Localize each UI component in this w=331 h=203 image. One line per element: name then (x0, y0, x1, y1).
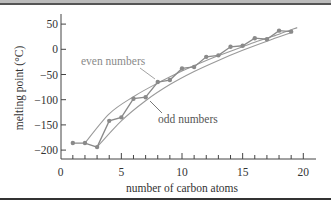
odd-numbers-leader (150, 101, 162, 113)
odd-numbers-label: odd numbers (158, 113, 218, 125)
data-point-marker (265, 37, 269, 41)
melting-point-line (73, 31, 291, 147)
data-point-marker (180, 66, 184, 70)
data-point-marker (71, 141, 75, 145)
data-point-marker (143, 95, 147, 99)
data-point-marker (192, 65, 196, 69)
even-numbers-leader (140, 68, 155, 79)
x-axis-title: number of carbon atoms (126, 182, 239, 194)
data-point-marker (131, 96, 135, 100)
data-point-marker (119, 115, 123, 119)
y-tick-label: −150 (34, 119, 58, 131)
data-point-marker (289, 29, 293, 33)
x-tick-label: 5 (118, 166, 124, 178)
data-point-marker (204, 55, 208, 59)
trend-curves (85, 28, 297, 147)
y-axis-title: melting point (°C) (13, 46, 26, 131)
data-point-marker (277, 28, 281, 32)
data-point-marker (216, 53, 220, 57)
y-tick-label: −50 (40, 69, 58, 81)
y-tick-label: −200 (34, 144, 58, 156)
data-point-marker (95, 145, 99, 149)
y-tick-label: −100 (34, 94, 58, 106)
x-tick-label: 10 (176, 166, 188, 178)
data-point-marker (107, 119, 111, 123)
x-tick-label: 15 (237, 166, 249, 178)
melting-point-chart: 500−50−100−150−20005101520 even numberso… (0, 0, 331, 203)
data-point-marker (253, 36, 257, 40)
y-tick-label: 50 (47, 18, 59, 30)
data-point-marker (83, 141, 87, 145)
data-series (71, 28, 294, 149)
odd-numbers-trend-curve (97, 33, 291, 147)
data-point-marker (156, 80, 160, 84)
annotations: even numbersodd numbers (81, 55, 218, 125)
data-point-marker (228, 45, 232, 49)
x-tick-label: 0 (58, 166, 64, 178)
even-numbers-label: even numbers (81, 55, 146, 67)
data-point-marker (240, 44, 244, 48)
y-tick-label: 0 (52, 43, 58, 55)
data-point-marker (168, 78, 172, 82)
x-tick-label: 20 (298, 166, 310, 178)
